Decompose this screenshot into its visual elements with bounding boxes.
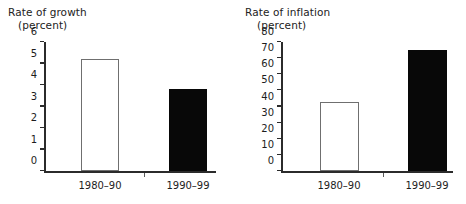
y-tick-label: 5 — [31, 49, 37, 59]
y-tick-label: 20 — [261, 124, 274, 134]
y-tick-label: 3 — [31, 92, 37, 102]
y-tick-mark — [277, 89, 281, 90]
bar-growth-0 — [81, 59, 119, 171]
y-tick-label: 6 — [31, 27, 37, 37]
x-minor-tick — [383, 173, 384, 177]
panel-rate-of-growth: Rate of growth (percent) 0123456 1980–90… — [0, 0, 233, 204]
x-category-label-growth-1: 1990–99 — [166, 180, 209, 191]
two-panel-bar-chart-figure: Rate of growth (percent) 0123456 1980–90… — [0, 0, 466, 204]
y-tick-mark — [40, 84, 44, 85]
x-category-label-inflation-1: 1990–99 — [405, 180, 448, 191]
x-minor-tick — [144, 173, 145, 177]
y-tick-label: 30 — [261, 108, 274, 118]
y-tick-label: 0 — [268, 156, 274, 166]
x-category-label-inflation-0: 1980–90 — [317, 180, 360, 191]
y-tick-mark — [277, 41, 281, 42]
bar-inflation-1 — [408, 50, 447, 171]
y-axis-inflation — [281, 42, 283, 172]
y-tick-mark — [277, 57, 281, 58]
y-tick-label: 60 — [261, 59, 274, 69]
y-tick-label: 1 — [31, 135, 37, 145]
y-tick-mark — [277, 138, 281, 139]
x-axis-growth — [44, 171, 216, 173]
y-tick-mark — [40, 105, 44, 106]
panel-growth-title: Rate of growth — [8, 6, 87, 19]
panel-rate-of-inflation: Rate of inflation (percent) 010203040506… — [233, 0, 466, 204]
y-tick-label: 40 — [261, 92, 274, 102]
y-tick-label: 70 — [261, 43, 274, 53]
bar-inflation-0 — [320, 102, 359, 171]
bar-growth-1 — [169, 89, 207, 171]
y-tick-label: 80 — [261, 27, 274, 37]
y-tick-mark — [40, 62, 44, 63]
y-tick-label: 50 — [261, 75, 274, 85]
y-tick-label: 10 — [261, 140, 274, 150]
y-tick-label: 4 — [31, 70, 37, 80]
y-tick-mark — [40, 170, 44, 171]
plot-area-inflation: 01020304050607080 1980–901990–99 — [281, 42, 453, 173]
y-tick-mark — [277, 122, 281, 123]
y-tick-mark — [277, 170, 281, 171]
y-tick-label: 2 — [31, 113, 37, 123]
y-tick-mark — [277, 73, 281, 74]
panel-inflation-title: Rate of inflation — [245, 6, 330, 19]
y-tick-mark — [277, 105, 281, 106]
x-axis-inflation — [281, 171, 453, 173]
y-tick-mark — [277, 154, 281, 155]
y-tick-mark — [40, 127, 44, 128]
x-category-label-growth-0: 1980–90 — [78, 180, 121, 191]
y-axis-growth — [44, 42, 46, 172]
y-tick-label: 0 — [31, 156, 37, 166]
y-tick-mark — [40, 148, 44, 149]
y-tick-mark — [40, 41, 44, 42]
plot-area-growth: 0123456 1980–901990–99 — [44, 42, 216, 173]
panel-growth-subtitle: (percent) — [18, 19, 67, 32]
